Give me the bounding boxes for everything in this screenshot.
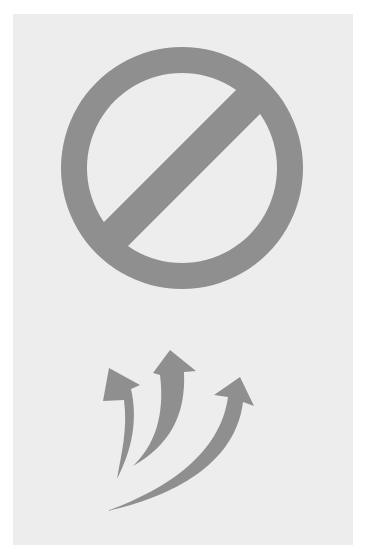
arrow-left-icon (103, 368, 140, 479)
illustration (0, 0, 367, 557)
no-entry-icon (61, 47, 303, 289)
curved-arrows-up-icon (103, 350, 254, 511)
arrow-middle-icon (133, 350, 196, 466)
prohibition-slash (97, 81, 269, 253)
canvas: Prohibited Rising arrows (0, 0, 367, 557)
